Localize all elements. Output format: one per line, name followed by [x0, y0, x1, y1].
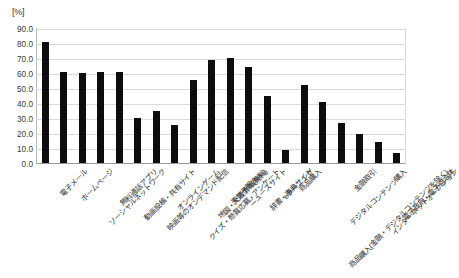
gridline: [36, 149, 406, 150]
y-axis-tick-label: 70.0: [17, 55, 33, 64]
bar: [245, 67, 252, 163]
bar: [116, 72, 123, 163]
plot-area: [36, 28, 406, 164]
bar: [60, 72, 67, 164]
bar: [375, 142, 382, 163]
y-axis-tick-label: 30.0: [17, 115, 33, 124]
y-axis-tick-label: 80.0: [17, 40, 33, 49]
bar: [190, 80, 197, 163]
bar: [134, 118, 141, 163]
bar: [356, 134, 363, 163]
bar: [227, 58, 234, 163]
x-axis-tick-labels: 電子メールホームページソーシャルネットワーク無料通話アプリ動画投稿・共有サイト映…: [36, 166, 416, 278]
y-axis-tick-label: 50.0: [17, 85, 33, 94]
bar: [393, 153, 400, 163]
y-axis-tick-label: 0.0: [22, 160, 33, 169]
bar: [97, 72, 104, 164]
y-axis-tick-label: 40.0: [17, 100, 33, 109]
y-axis-tick-label: 10.0: [17, 145, 33, 154]
gridline: [36, 119, 406, 120]
gridline: [36, 29, 406, 30]
bar: [338, 123, 345, 164]
gridline: [36, 59, 406, 60]
gridline: [36, 134, 406, 135]
y-axis-unit-label: [%]: [12, 7, 24, 17]
gridline: [36, 74, 406, 75]
bar: [301, 85, 308, 163]
x-axis-tick-label: ソーシャルネットワーク: [108, 168, 167, 227]
plot-frame: [36, 28, 406, 164]
gridline: [36, 104, 406, 105]
y-axis-tick-label: 20.0: [17, 130, 33, 139]
bar: [208, 60, 215, 164]
gridline: [36, 44, 406, 45]
y-axis-tick-labels: 0.010.020.030.040.050.060.070.080.090.0: [0, 28, 33, 164]
bar: [264, 96, 271, 163]
bar: [171, 125, 178, 163]
x-axis-tick-label: 金融取引: [353, 168, 378, 193]
y-axis-tick-label: 60.0: [17, 70, 33, 79]
y-axis-tick-label: 90.0: [17, 25, 33, 34]
bar: [42, 42, 49, 163]
bar: [79, 73, 86, 163]
x-axis-tick-label: 電子政府・電子自治体: [402, 168, 456, 222]
bar: [153, 111, 160, 163]
bar: [319, 102, 326, 163]
gridline: [36, 89, 406, 90]
bar: [282, 150, 289, 164]
